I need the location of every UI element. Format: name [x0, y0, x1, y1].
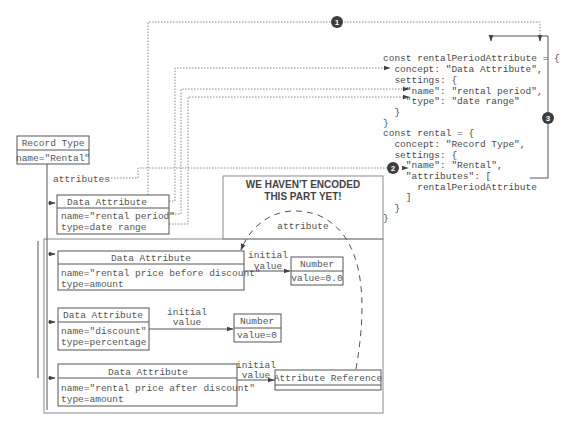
attributes-label: attributes — [53, 174, 110, 185]
svg-text:value: value — [254, 261, 283, 272]
code-line: } — [383, 107, 400, 118]
svg-text:Data Attribute: Data Attribute — [67, 197, 147, 208]
svg-text:name="Rental": name="Rental" — [16, 153, 90, 164]
svg-text:Attribute Reference: Attribute Reference — [274, 373, 383, 384]
svg-text:type=percentage: type=percentage — [61, 337, 147, 348]
code-block: const rentalPeriodAttribute = { concept:… — [383, 53, 560, 224]
svg-text:name="rental price before disc: name="rental price before discount" — [61, 268, 261, 279]
svg-text:THIS PART YET!: THIS PART YET! — [264, 191, 341, 202]
code-line: ] — [383, 192, 412, 203]
svg-text:name="rental price after disco: name="rental price after discount" — [61, 383, 255, 394]
svg-text:Record Type: Record Type — [22, 138, 85, 149]
code-line: "type": "date range" — [383, 96, 520, 107]
svg-text:1: 1 — [335, 18, 340, 27]
initial-value-arrow-2: initial value — [149, 307, 233, 329]
svg-text:Data Attribute: Data Attribute — [63, 310, 143, 321]
svg-text:3: 3 — [546, 114, 551, 123]
number-box-2: Number value=0 — [234, 314, 281, 342]
svg-text:name="discount": name="discount" — [61, 326, 147, 337]
svg-text:value: value — [173, 317, 202, 328]
number-box-1: Number value=0.0 — [291, 257, 343, 285]
svg-text:value=0: value=0 — [237, 330, 277, 341]
data-attribute-discount: Data Attribute name="discount" type=perc… — [58, 308, 149, 350]
svg-text:Data Attribute: Data Attribute — [111, 253, 191, 264]
connector-type — [160, 97, 409, 224]
data-attribute-rental-period: Data Attribute name="rental period" type… — [57, 195, 175, 234]
initial-value-arrow-3: initial value — [236, 360, 276, 381]
svg-text:WE HAVEN'T ENCODED: WE HAVEN'T ENCODED — [246, 179, 360, 190]
svg-text:Number: Number — [240, 316, 274, 327]
record-type-box: Record Type name="Rental" — [16, 136, 90, 164]
code-line: settings: { — [383, 75, 457, 86]
not-encoded-callout: WE HAVEN'T ENCODED THIS PART YET! attrib… — [223, 176, 383, 239]
attribute-label: attribute — [277, 221, 329, 232]
svg-text:type=amount: type=amount — [61, 279, 124, 290]
svg-text:name="rental period": name="rental period" — [61, 211, 175, 222]
badge-1: 1 — [331, 16, 343, 28]
svg-text:initial: initial — [248, 250, 288, 261]
code-line: "name": "Rental", — [383, 160, 503, 171]
code-line: concept: "Data Attribute", — [383, 64, 543, 75]
svg-text:value=0.0: value=0.0 — [291, 273, 343, 284]
data-attribute-price-before-discount: Data Attribute name="rental price before… — [58, 251, 261, 290]
data-attribute-price-after-discount: Data Attribute name="rental price after … — [58, 364, 255, 406]
code-line: const rentalPeriodAttribute = { — [383, 53, 560, 64]
attribute-reference-box: Attribute Reference — [274, 370, 383, 390]
code-line: } — [383, 213, 389, 224]
code-line: "attributes": [ — [383, 171, 491, 182]
badge-3: 3 — [542, 112, 554, 124]
diagram-canvas: 1 2 3 const rentalPeriodAttribute = { co… — [0, 0, 566, 429]
svg-text:Data Attribute: Data Attribute — [108, 367, 188, 378]
svg-text:value: value — [242, 370, 271, 381]
svg-text:type=amount: type=amount — [61, 394, 124, 405]
attribute-reference-arc — [241, 211, 362, 369]
code-line: concept: "Record Type", — [383, 139, 526, 150]
svg-text:type=date range: type=date range — [61, 222, 147, 233]
code-line: const rental = { — [383, 128, 474, 139]
svg-text:Number: Number — [300, 259, 334, 270]
